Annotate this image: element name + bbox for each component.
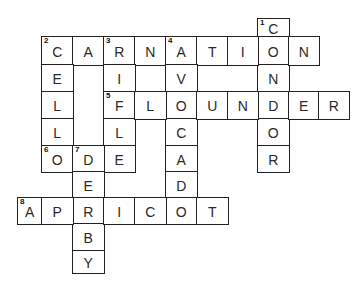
grid-cell: I: [103, 197, 136, 225]
grid-cell: E: [288, 91, 320, 120]
cell-letter: D: [176, 178, 186, 194]
cell-letter: C: [176, 125, 186, 141]
grid-cell: C: [165, 118, 198, 147]
cell-letter: Y: [84, 255, 93, 271]
cell-letter: D: [83, 152, 93, 168]
cell-letter: E: [299, 98, 308, 114]
clue-number: 2: [44, 37, 48, 45]
grid-cell: N: [134, 36, 167, 66]
grid-cell: D: [165, 171, 198, 199]
grid-cell: L: [41, 91, 74, 120]
cell-letter: D: [268, 98, 278, 114]
cell-letter: O: [176, 98, 187, 114]
cell-letter: E: [115, 152, 124, 168]
grid-cell: L: [41, 118, 74, 147]
grid-cell: T: [196, 36, 229, 66]
cell-letter: L: [53, 125, 61, 141]
cell-letter: I: [117, 71, 121, 87]
cell-letter: C: [268, 21, 278, 37]
grid-cell: 2C: [41, 36, 74, 66]
cell-letter: P: [53, 204, 62, 220]
clue-number: 1: [260, 19, 264, 27]
grid-cell: A: [72, 36, 105, 66]
grid-cell: I: [103, 64, 136, 93]
cell-letter: R: [114, 44, 124, 60]
grid-cell: T: [196, 197, 229, 225]
cell-letter: O: [176, 204, 187, 220]
grid-cell: Y: [72, 250, 105, 274]
cell-letter: O: [268, 125, 279, 141]
clue-number: 5: [106, 92, 110, 100]
cell-letter: L: [53, 98, 61, 114]
grid-cell: E: [103, 145, 136, 173]
grid-cell: A: [165, 145, 198, 173]
grid-cell: O: [165, 91, 198, 120]
cell-letter: N: [299, 44, 309, 60]
cell-letter: N: [268, 71, 278, 87]
cell-letter: R: [268, 152, 278, 168]
crossword-grid: 1CONDOR2CA3RN4ATINELLI5FLEVOCADOLUNER6O7…: [0, 0, 364, 296]
cell-letter: B: [84, 230, 93, 246]
grid-cell: 7D: [72, 145, 105, 173]
clue-number: 7: [75, 146, 79, 154]
cell-letter: C: [145, 204, 155, 220]
cell-letter: E: [84, 178, 93, 194]
grid-cell: 1C: [257, 18, 290, 38]
grid-cell: 5F: [103, 91, 136, 120]
cell-letter: I: [117, 204, 121, 220]
cell-letter: L: [146, 98, 154, 114]
grid-cell: U: [196, 91, 229, 120]
grid-cell: O: [165, 197, 198, 225]
cell-letter: V: [177, 71, 186, 87]
cell-letter: L: [115, 125, 123, 141]
cell-letter: R: [329, 98, 339, 114]
clue-number: 4: [168, 37, 172, 45]
grid-cell: 6O: [41, 145, 74, 173]
grid-cell: R: [257, 145, 290, 173]
cell-letter: C: [52, 44, 62, 60]
cell-letter: A: [25, 204, 34, 220]
cell-letter: A: [177, 152, 186, 168]
grid-cell: L: [103, 118, 136, 147]
cell-letter: T: [208, 204, 217, 220]
grid-cell: O: [257, 36, 290, 66]
grid-cell: N: [227, 91, 259, 120]
grid-cell: E: [41, 64, 74, 93]
grid-cell: O: [257, 118, 290, 147]
clue-number: 8: [20, 198, 24, 206]
grid-cell: 4A: [165, 36, 198, 66]
grid-cell: R: [318, 91, 350, 120]
grid-cell: N: [257, 64, 290, 93]
grid-cell: 3R: [103, 36, 136, 66]
cell-letter: E: [53, 71, 62, 87]
grid-cell: P: [41, 197, 74, 225]
grid-cell: I: [227, 36, 259, 66]
grid-cell: L: [134, 91, 167, 120]
clue-number: 6: [44, 146, 48, 154]
cell-letter: N: [238, 98, 248, 114]
cell-letter: A: [177, 44, 186, 60]
grid-cell: C: [134, 197, 167, 225]
grid-cell: 8A: [17, 197, 43, 225]
cell-letter: O: [268, 44, 279, 60]
cell-letter: U: [207, 98, 217, 114]
cell-letter: I: [241, 44, 245, 60]
grid-cell: D: [257, 91, 290, 120]
clue-number: 3: [106, 37, 110, 45]
grid-cell: E: [72, 171, 105, 199]
cell-letter: F: [115, 98, 124, 114]
grid-cell: B: [72, 223, 105, 252]
cell-letter: N: [145, 44, 155, 60]
grid-cell: R: [72, 197, 105, 225]
grid-cell: N: [288, 36, 320, 66]
cell-letter: O: [52, 152, 63, 168]
cell-letter: A: [84, 44, 93, 60]
cell-letter: T: [208, 44, 217, 60]
grid-cell: V: [165, 64, 198, 93]
cell-letter: R: [83, 204, 93, 220]
